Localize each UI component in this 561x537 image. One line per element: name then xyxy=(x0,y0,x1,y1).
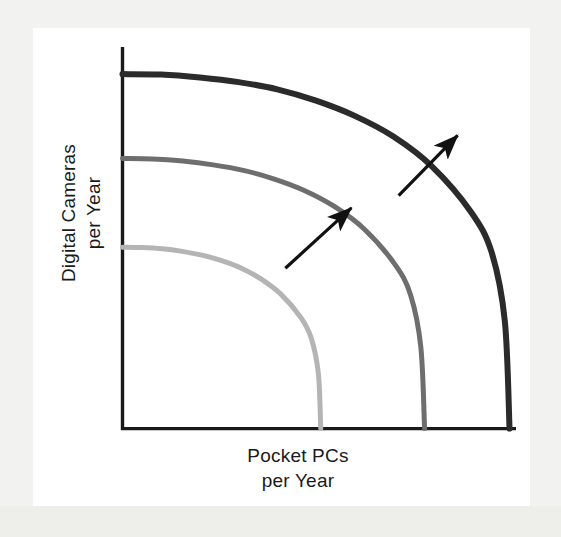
plot-area: Digital Camerasper Year Pocket PCsper Ye… xyxy=(33,28,530,506)
growth-arrow-inner xyxy=(285,208,351,268)
figure-root: Digital Camerasper Year Pocket PCsper Ye… xyxy=(0,0,561,537)
x-axis-label-line2: per Year xyxy=(262,470,334,491)
x-axis-label: Pocket PCsper Year xyxy=(183,443,413,493)
y-axis-label-line1: Digital Cameras xyxy=(58,144,79,282)
x-axis-label-line1: Pocket PCs xyxy=(247,445,348,466)
ppf-curves xyxy=(123,74,510,428)
ppf-curve-1 xyxy=(123,247,321,428)
figure-page-panel: Digital Camerasper Year Pocket PCsper Ye… xyxy=(33,28,530,506)
ppf-curve-2 xyxy=(123,159,425,429)
ppf-chart-svg xyxy=(33,28,530,506)
growth-arrows xyxy=(285,135,457,268)
y-axis-label-line2: per Year xyxy=(83,177,104,249)
scan-margin-bottom xyxy=(0,506,561,537)
scan-margin-left xyxy=(0,0,33,537)
y-axis-label: Digital Camerasper Year xyxy=(56,118,106,308)
